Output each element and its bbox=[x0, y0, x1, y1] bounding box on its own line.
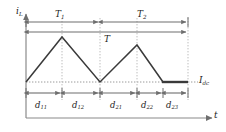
d11-label: d11 bbox=[35, 101, 47, 110]
d12-label: d12 bbox=[72, 101, 84, 110]
period-arrows-top bbox=[26, 17, 188, 27]
d23-label: d23 bbox=[166, 101, 178, 110]
y-axis-label: iL bbox=[16, 7, 22, 16]
t1-label: T1 bbox=[55, 10, 64, 19]
t-full-label: T bbox=[104, 35, 110, 44]
waveform-canvas bbox=[0, 0, 226, 132]
t2-label: T2 bbox=[137, 10, 146, 19]
idc-label: Idc bbox=[199, 76, 209, 85]
waveform-figure: iL T1 T2 T Idc t d11 d12 d21 d22 d23 bbox=[0, 0, 226, 132]
duty-arrows bbox=[26, 88, 188, 98]
inductor-current-waveform bbox=[26, 37, 163, 82]
x-axis-label: t bbox=[214, 111, 218, 120]
d21-label: d21 bbox=[110, 101, 122, 110]
d22-label: d22 bbox=[141, 101, 153, 110]
